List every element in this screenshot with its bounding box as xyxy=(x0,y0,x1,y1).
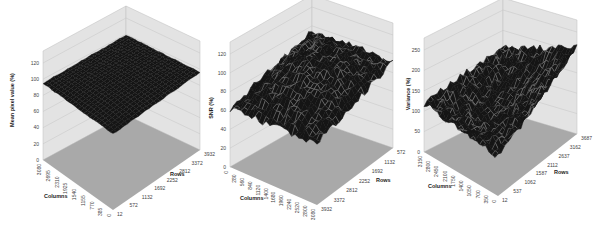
z-tick-label: 20 xyxy=(33,141,39,147)
x-tick-label: 1155 xyxy=(80,195,86,206)
z-tick-label: 80 xyxy=(220,88,226,94)
x-tick-label: 1400 xyxy=(458,180,464,191)
y-tick-label: 2252 xyxy=(167,177,178,183)
z-tick-label: 100 xyxy=(31,76,40,82)
x-tick-label: 350 xyxy=(483,195,489,204)
x-tick-label: 385 xyxy=(97,208,103,217)
z-tick-label: 60 xyxy=(33,108,39,114)
chart-svg-1: 0204060801001200280560840112014001680196… xyxy=(200,0,400,227)
z-tick-label: 150 xyxy=(412,88,421,94)
x-tick-label: 840 xyxy=(247,181,253,190)
x-axis-label: Columns xyxy=(240,195,264,201)
x-tick-label: 0 xyxy=(491,200,497,203)
z-tick-label: 40 xyxy=(220,126,226,132)
y-axis-label: Rows xyxy=(554,169,569,175)
z-axis-label: Variance (%) xyxy=(405,77,411,110)
y-tick-label: 3162 xyxy=(570,144,581,150)
x-tick-label: 2800 xyxy=(302,205,308,216)
y-tick-label: 1132 xyxy=(384,159,395,165)
y-tick-label: 3687 xyxy=(581,135,592,141)
y-tick-label: 537 xyxy=(513,188,522,194)
y-tick-label: 3932 xyxy=(321,206,332,212)
z-tick-label: 120 xyxy=(31,60,40,66)
z-tick-label: 0 xyxy=(417,149,420,155)
z-tick-label: 60 xyxy=(220,107,226,113)
y-tick-label: 2252 xyxy=(359,178,370,184)
y-tick-label: 1692 xyxy=(372,168,383,174)
y-tick-label: 2812 xyxy=(346,187,357,193)
chart-mean-pixel-value: 0204060801001203080269523101925154011557… xyxy=(0,0,200,227)
chart-variance: 0501001502002503150280024502100175014001… xyxy=(400,0,600,227)
x-tick-label: 2240 xyxy=(286,198,292,209)
z-tick-label: 20 xyxy=(220,145,226,151)
x-tick-label: 1960 xyxy=(278,195,284,206)
y-tick-label: 12 xyxy=(117,211,123,217)
y-tick-label: 1132 xyxy=(142,194,153,200)
x-tick-label: 0 xyxy=(223,171,229,174)
z-axis-label: Mean pixel value (%) xyxy=(9,73,15,127)
y-tick-label: 2112 xyxy=(547,162,558,168)
x-axis-label: Columns xyxy=(44,193,68,199)
z-tick-label: 120 xyxy=(218,51,227,57)
x-tick-label: 3080 xyxy=(310,209,316,220)
z-tick-label: 200 xyxy=(412,67,421,73)
x-tick-label: 700 xyxy=(475,190,481,199)
x-tick-label: 2800 xyxy=(425,161,431,172)
y-tick-label: 1587 xyxy=(536,170,547,176)
x-tick-label: 2310 xyxy=(54,176,60,187)
z-tick-label: 80 xyxy=(33,92,39,98)
x-tick-label: 1120 xyxy=(255,185,261,196)
z-tick-label: 100 xyxy=(412,108,421,114)
x-tick-label: 3150 xyxy=(417,156,423,167)
z-tick-label: 50 xyxy=(414,128,420,134)
chart-svg-2: 0501001502002503150280024502100175014001… xyxy=(400,0,601,227)
x-tick-label: 2100 xyxy=(442,170,448,181)
x-tick-label: 1540 xyxy=(71,189,77,200)
chart-snr: 0204060801001200280560840112014001680196… xyxy=(200,0,400,227)
y-axis-label: Rows xyxy=(376,177,391,183)
z-axis-label: SNR (%) xyxy=(208,97,214,119)
x-tick-label: 770 xyxy=(89,201,95,210)
x-tick-label: 560 xyxy=(239,178,245,187)
x-tick-label: 0 xyxy=(106,214,112,217)
y-tick-label: 1692 xyxy=(154,185,165,191)
x-axis-label: Columns xyxy=(428,183,452,189)
y-tick-label: 3372 xyxy=(334,197,345,203)
z-tick-label: 100 xyxy=(218,70,227,76)
z-tick-label: 250 xyxy=(412,47,421,53)
y-axis-label: Rows xyxy=(170,171,185,177)
y-tick-label: 1062 xyxy=(525,179,536,185)
z-tick-label: 0 xyxy=(223,164,226,170)
z-tick-label: 40 xyxy=(33,124,39,130)
x-tick-label: 280 xyxy=(231,174,237,183)
x-tick-label: 1680 xyxy=(270,192,276,203)
x-tick-label: 2695 xyxy=(45,170,51,181)
y-tick-label: 2637 xyxy=(558,153,569,159)
chart-svg-0: 0204060801001203080269523101925154011557… xyxy=(0,0,200,227)
x-tick-label: 2450 xyxy=(433,166,439,177)
x-tick-label: 1050 xyxy=(466,185,472,196)
y-tick-label: 572 xyxy=(129,202,138,208)
y-tick-label: 12 xyxy=(502,197,508,203)
z-tick-label: 0 xyxy=(36,157,39,163)
x-tick-label: 3080 xyxy=(36,164,42,175)
x-tick-label: 2520 xyxy=(294,202,300,213)
